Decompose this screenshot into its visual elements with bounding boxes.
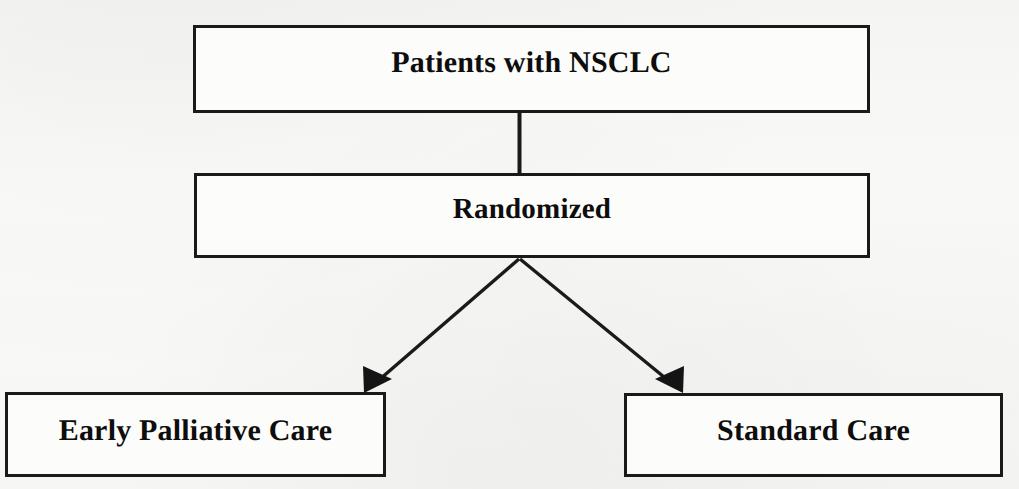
node-early-palliative-care-label: Early Palliative Care — [59, 414, 333, 448]
connector-randomized-to-early-palliative-care — [372, 259, 519, 386]
node-early-palliative-care: Early Palliative Care — [5, 392, 386, 477]
figure-canvas: Patients with NSCLC Randomized Early Pal… — [0, 0, 1019, 489]
arrowhead-early-palliative-care-icon — [363, 366, 392, 393]
node-randomized-label: Randomized — [453, 193, 611, 226]
node-patients-with-nsclc-label: Patients with NSCLC — [391, 46, 671, 80]
node-standard-care-label: Standard Care — [717, 414, 910, 448]
node-patients-with-nsclc: Patients with NSCLC — [193, 25, 870, 113]
connector-randomized-to-standard-care — [520, 259, 675, 386]
node-randomized: Randomized — [194, 173, 870, 258]
node-standard-care: Standard Care — [624, 393, 1003, 477]
cut-off-caption-strip — [0, 0, 1019, 11]
arrowhead-standard-care-icon — [655, 366, 684, 393]
